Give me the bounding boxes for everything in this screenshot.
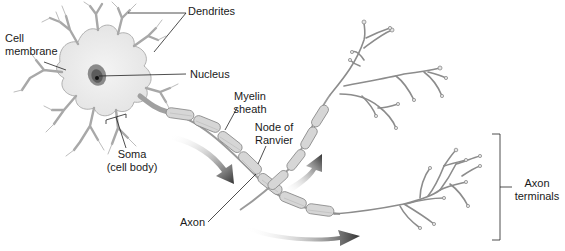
label-myelin-sheath: Myelin sheath (230, 90, 270, 116)
lower-axon-terminals (334, 150, 480, 228)
upper-axon-terminals (330, 22, 446, 128)
label-soma-line-1: Soma (102, 148, 162, 161)
node-leader (258, 146, 266, 164)
label-dendrites: Dendrites (188, 5, 235, 18)
lower-terminal-buttons (418, 148, 481, 229)
label-myelin-line-1: Myelin (230, 90, 270, 103)
label-cell-membrane-line-2: membrane (5, 45, 58, 58)
label-axon: Axon (180, 216, 205, 229)
label-soma-line-2: (cell body) (102, 161, 162, 174)
label-myelin-line-2: sheath (230, 103, 270, 116)
neuron-diagram: Dendrites Cell membrane Nucleus Myelin s… (0, 0, 565, 251)
label-node-of-ranvier: Node of Ranvier (252, 121, 296, 147)
label-node-line-2: Ranvier (252, 134, 296, 147)
signal-direction-arrow-lower (246, 226, 360, 246)
label-node-line-1: Node of (252, 121, 296, 134)
label-cell-membrane: Cell membrane (5, 32, 58, 58)
dendrites-leader (128, 13, 186, 52)
label-nucleus: Nucleus (190, 68, 230, 81)
label-terminals-line-1: Axon (512, 177, 562, 190)
label-cell-membrane-line-1: Cell (5, 32, 58, 45)
label-axon-terminals: Axon terminals (512, 177, 562, 203)
label-soma: Soma (cell body) (102, 148, 162, 174)
label-terminals-line-2: terminals (512, 190, 562, 203)
terminals-bracket (492, 134, 512, 240)
